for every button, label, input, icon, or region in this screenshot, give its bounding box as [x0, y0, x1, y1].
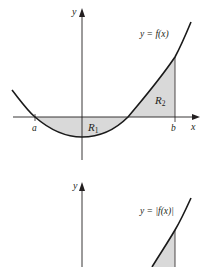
area-diagram: y x y = f(x) a b R1 R2 y y = |f(x)|: [0, 0, 211, 267]
bound-b-label: b: [171, 123, 176, 133]
bottom-y-axis-arrow-icon: [79, 182, 85, 191]
bottom-graph: y y = |f(x)|: [72, 180, 191, 267]
top-y-axis-label: y: [71, 6, 77, 17]
top-graph: y x y = f(x) a b R1 R2: [12, 6, 200, 160]
bound-a-label: a: [32, 123, 37, 133]
x-axis-label: x: [190, 121, 196, 132]
curve-f-label: y = f(x): [139, 29, 169, 40]
y-axis-arrow-icon: [79, 8, 85, 17]
bottom-y-axis-label: y: [72, 180, 78, 191]
curve-abs-f-label: y = |f(x)|: [139, 206, 174, 217]
x-axis-arrow-icon: [192, 114, 200, 120]
